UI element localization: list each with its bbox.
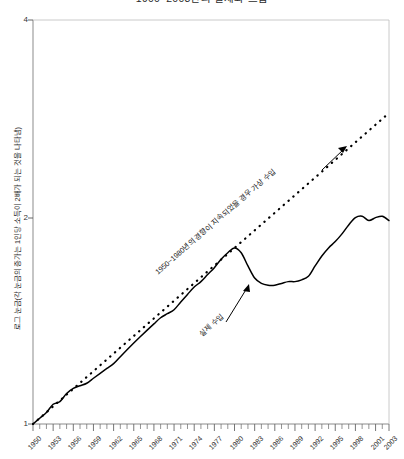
actual-annotation-arrow	[226, 284, 250, 322]
series-hypothetical-trend	[33, 113, 389, 424]
trend-annotation-arrow	[322, 146, 347, 170]
x-axis-ticks	[33, 424, 389, 431]
chart-container: 1900~2003년의 실제와 흐름 로그 눈금(각 눈금의 증가는 1인당 소…	[0, 0, 404, 459]
